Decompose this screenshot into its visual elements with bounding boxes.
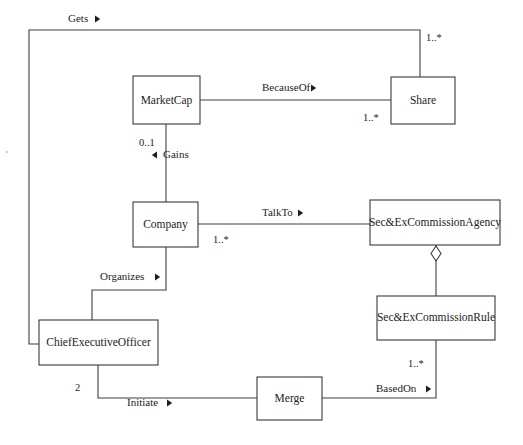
- direction-arrow-organizes: [155, 274, 160, 281]
- association-label-becauseof: BecauseOf: [262, 81, 311, 93]
- multiplicity-marketcap-bottom: 0..1: [139, 137, 155, 148]
- scan-speck: [6, 151, 8, 153]
- direction-arrow-talkto: [298, 210, 303, 217]
- association-line-organizes: [92, 247, 166, 320]
- aggregation-diamond-icon: [431, 246, 441, 261]
- multiplicity-share-top: 1..*: [426, 32, 442, 43]
- multiplicity-ceo-bottom: 2: [75, 382, 80, 393]
- class-name-agency: Sec&ExCommissionAgency: [369, 216, 501, 229]
- class-name-marketcap: MarketCap: [141, 94, 193, 107]
- direction-arrow-becauseof: [311, 85, 316, 92]
- association-label-basedon: BasedOn: [376, 382, 417, 394]
- class-name-rule: Sec&ExCommissionRule: [377, 311, 495, 323]
- association-label-gains: Gains: [163, 148, 189, 160]
- direction-arrow-initiate: [167, 400, 172, 407]
- association-line-gets: [29, 30, 420, 344]
- uml-class-diagram: Gets BecauseOf Gains TalkTo Organizes In…: [0, 0, 523, 445]
- class-node-agency[interactable]: Sec&ExCommissionAgency: [369, 200, 501, 245]
- class-node-rule[interactable]: Sec&ExCommissionRule: [377, 296, 495, 340]
- class-node-marketcap[interactable]: MarketCap: [133, 76, 200, 124]
- class-node-ceo[interactable]: ChiefExecutiveOfficer: [39, 320, 158, 365]
- multiplicity-rule-bottom: 1..*: [408, 358, 424, 369]
- class-node-merge[interactable]: Merge: [257, 377, 322, 420]
- class-name-share: Share: [410, 94, 436, 106]
- class-name-merge: Merge: [275, 392, 305, 405]
- class-name-company: Company: [143, 218, 188, 231]
- multiplicity-company-right: 1..*: [213, 234, 229, 245]
- class-name-ceo: ChiefExecutiveOfficer: [46, 336, 151, 348]
- association-label-organizes: Organizes: [100, 270, 144, 282]
- direction-arrow-basedon: [426, 386, 431, 393]
- association-line-initiate: [98, 365, 257, 398]
- association-label-gets: Gets: [68, 12, 88, 24]
- association-label-talkto: TalkTo: [262, 206, 293, 218]
- association-label-initiate: Initiate: [127, 396, 158, 408]
- multiplicity-share-left: 1..*: [363, 112, 379, 123]
- class-node-share[interactable]: Share: [391, 77, 455, 124]
- direction-arrow-gets: [95, 16, 100, 23]
- direction-arrow-gains: [152, 152, 157, 159]
- class-node-company[interactable]: Company: [133, 202, 198, 247]
- diagram-canvas: Gets BecauseOf Gains TalkTo Organizes In…: [0, 0, 523, 445]
